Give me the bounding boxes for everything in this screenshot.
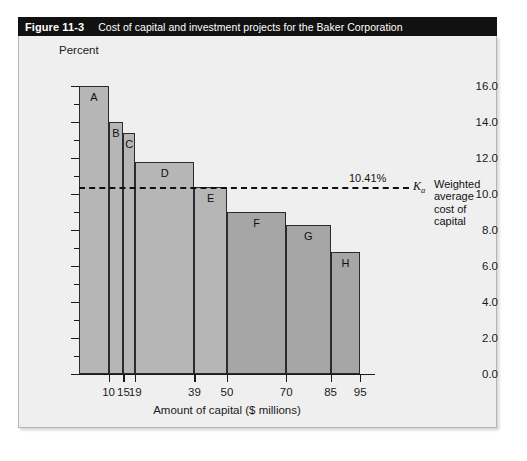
- figure-title-bar: Figure 11-3 Cost of capital and investme…: [18, 17, 497, 36]
- figure-caption: Cost of capital and investment projects …: [98, 21, 402, 33]
- y-tick-label: 12.0: [450, 152, 498, 164]
- x-tick: [109, 374, 110, 382]
- x-tick-label: 19: [129, 386, 142, 398]
- x-tick-label: 39: [188, 386, 201, 398]
- chart-panel: Percent 0.02.04.06.08.010.012.014.016.0 …: [18, 36, 497, 428]
- figure-container: Figure 11-3 Cost of capital and investme…: [18, 17, 497, 428]
- x-tick-label: 85: [324, 386, 337, 398]
- y-tick-major: [71, 122, 79, 123]
- y-tick-label: 0.0: [450, 368, 498, 380]
- x-tick-label: 50: [221, 386, 234, 398]
- x-tick: [360, 374, 361, 382]
- y-tick-label: 2.0: [450, 332, 498, 344]
- x-tick-label: 10: [102, 386, 115, 398]
- plot-area: 0.02.04.06.08.010.012.014.016.0 10151939…: [19, 36, 498, 428]
- y-tick-major: [71, 194, 79, 195]
- bar-g: G: [286, 225, 330, 374]
- bar-label: D: [136, 167, 193, 179]
- wacc-dashed-line: [79, 187, 409, 189]
- x-tick-label: 95: [354, 386, 367, 398]
- bar-label: G: [287, 230, 329, 242]
- x-tick-label: 70: [280, 386, 293, 398]
- bar-e: E: [194, 187, 227, 374]
- y-tick-label: 4.0: [450, 296, 498, 308]
- bar-label: C: [124, 138, 134, 150]
- y-tick-major: [71, 266, 79, 267]
- y-tick-label: 14.0: [450, 116, 498, 128]
- bar-label: A: [80, 91, 108, 103]
- wacc-value-label: 10.41%: [349, 172, 386, 184]
- bar-label: F: [228, 217, 285, 229]
- y-tick-major: [71, 230, 79, 231]
- y-tick-label: 6.0: [450, 260, 498, 272]
- bar-c: C: [123, 133, 135, 374]
- y-tick-major: [71, 302, 79, 303]
- figure-number: Figure 11-3: [25, 21, 84, 33]
- x-tick: [123, 374, 124, 382]
- x-tick: [286, 374, 287, 382]
- bar-label: E: [195, 192, 226, 204]
- x-axis-label: Amount of capital ($ millions): [79, 404, 375, 416]
- bar-d: D: [135, 162, 194, 374]
- bar-label: B: [110, 127, 123, 139]
- y-tick-label: 16.0: [450, 80, 498, 92]
- bar-b: B: [109, 122, 124, 374]
- x-tick: [227, 374, 228, 382]
- y-tick-major: [71, 374, 79, 375]
- wacc-symbol-label: Ka: [413, 179, 425, 195]
- bar-label: H: [332, 257, 360, 269]
- y-tick-major: [71, 86, 79, 87]
- wacc-description-label: Weighted average cost of capital: [434, 178, 480, 228]
- x-tick: [194, 374, 195, 382]
- y-tick-major: [71, 158, 79, 159]
- x-tick: [135, 374, 136, 382]
- bar-f: F: [227, 212, 286, 374]
- bar-a: A: [79, 86, 109, 374]
- y-tick-major: [71, 338, 79, 339]
- bar-h: H: [331, 252, 361, 374]
- x-tick: [331, 374, 332, 382]
